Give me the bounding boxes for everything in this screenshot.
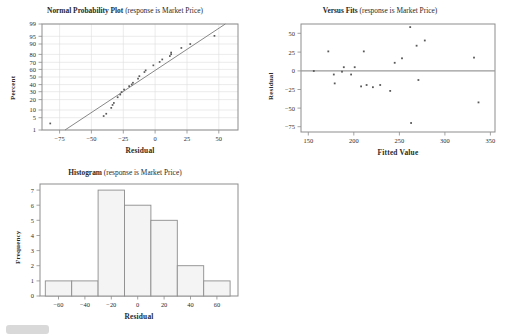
histogram-bar	[72, 281, 98, 296]
ytick-neg75: −75	[273, 123, 295, 130]
histogram-panel: Histogram (response is Market Price) Fre…	[0, 164, 250, 332]
ytick-70: 70	[14, 59, 36, 66]
ytick-1: 1	[14, 277, 34, 284]
ytick-50: 50	[14, 73, 36, 80]
ytick-neg25: −25	[273, 86, 295, 93]
ytick-4: 4	[14, 232, 34, 239]
versus-fits-x-axis-title: Fitted Value	[301, 148, 495, 157]
histogram-bars	[45, 190, 230, 296]
ytick-1: 1	[14, 126, 36, 133]
histogram-bar	[98, 190, 124, 296]
versus-fits-plot-area: Residual	[255, 2, 505, 160]
ytick-25: 25	[273, 49, 295, 56]
ghost-ui-chip[interactable]	[6, 325, 49, 334]
histogram-x-ticks	[59, 296, 217, 300]
ytick-95: 95	[14, 33, 36, 40]
normal-probability-plot-area: Percent	[0, 2, 250, 160]
normal-probability-plot-panel: Normal Probability Plot (response is Mar…	[0, 2, 250, 160]
versus-fits-points	[313, 26, 480, 124]
histogram-bar	[151, 220, 177, 296]
histogram-bar	[45, 281, 71, 296]
normal-plot-x-axis-title: Residual	[42, 146, 238, 155]
versus-fits-panel: Versus Fits (response is Market Price) R…	[255, 2, 505, 160]
ytick-7: 7	[14, 187, 34, 194]
ytick-30: 30	[14, 88, 36, 95]
xtick-0: 0	[140, 135, 170, 142]
histogram-bar	[204, 281, 230, 296]
normal-plot-points	[49, 35, 215, 124]
ytick-3: 3	[14, 247, 34, 254]
xtick-25: 25	[172, 135, 202, 142]
versus-fits-x-ticks	[308, 132, 490, 136]
versus-fits-frame	[301, 24, 495, 132]
xtick-200: 200	[339, 137, 369, 144]
ytick-0: 0	[14, 292, 34, 299]
ytick-80: 80	[14, 51, 36, 58]
ytick-0: 0	[273, 67, 295, 74]
xtick-50: 50	[204, 135, 234, 142]
histogram-bar	[125, 205, 151, 296]
ytick-40: 40	[14, 81, 36, 88]
xtick-neg50: −50	[76, 135, 106, 142]
normal-plot-x-ticks	[60, 130, 219, 134]
ytick-10: 10	[14, 106, 36, 113]
xtick-neg25: −25	[108, 135, 138, 142]
xtick-neg75: −75	[45, 135, 75, 142]
ytick-99: 99	[14, 20, 36, 27]
histogram-x-axis-title: Residual	[40, 312, 238, 321]
xtick-300: 300	[430, 137, 460, 144]
ytick-50: 50	[273, 30, 295, 37]
normal-plot-y-ticks	[39, 24, 43, 130]
ytick-90: 90	[14, 40, 36, 47]
ytick-5: 5	[14, 114, 36, 121]
histogram-bar	[177, 266, 203, 296]
xtick-60: 60	[202, 301, 232, 308]
histogram-y-ticks	[37, 190, 41, 296]
versus-fits-y-ticks	[298, 33, 302, 126]
ytick-6: 6	[14, 202, 34, 209]
ytick-60: 60	[14, 66, 36, 73]
ytick-5: 5	[14, 217, 34, 224]
histogram-plot-area: Frequency	[0, 164, 250, 332]
xtick-150: 150	[293, 137, 323, 144]
ytick-neg50: −50	[273, 105, 295, 112]
ytick-2: 2	[14, 262, 34, 269]
ytick-20: 20	[14, 96, 36, 103]
xtick-250: 250	[384, 137, 414, 144]
xtick-350: 350	[475, 137, 505, 144]
